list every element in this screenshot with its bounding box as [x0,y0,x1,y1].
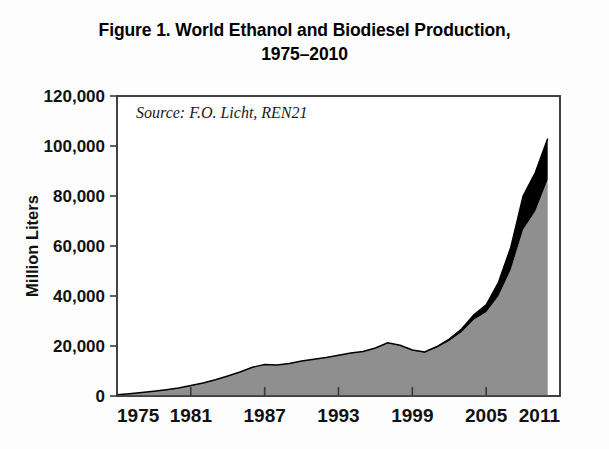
x-tick-label: 1975 [117,405,160,426]
chart-canvas: 020,00040,00060,00080,000100,000120,000 … [0,76,609,436]
x-tick-label: 1987 [244,405,286,426]
x-tick-label: 2005 [465,405,508,426]
y-axis-ticks [110,96,117,396]
y-tick-label: 100,000 [44,137,105,156]
y-tick-label: 20,000 [53,337,105,356]
source-annotation: Source: F.O. Licht, REN21 [136,104,308,121]
figure-container: Figure 1. World Ethanol and Biodiesel Pr… [0,0,609,449]
x-tick-label: 1999 [391,405,433,426]
page-title: Figure 1. World Ethanol and Biodiesel Pr… [0,18,609,66]
y-tick-label: 60,000 [53,237,105,256]
area-chart: 020,00040,00060,00080,000100,000120,000 … [0,76,609,436]
y-axis-tick-labels: 020,00040,00060,00080,000100,000120,000 [44,87,105,406]
y-axis-title: Million Liters [23,195,41,297]
x-tick-label: 2011 [519,405,561,426]
x-tick-label: 1981 [170,405,213,426]
y-tick-label: 40,000 [53,287,105,306]
y-tick-label: 120,000 [44,87,105,106]
figure-title-line-2: 1975–2010 [0,42,609,66]
y-tick-label: 80,000 [53,187,105,206]
x-tick-label: 1993 [317,405,359,426]
figure-title-line-1: Figure 1. World Ethanol and Biodiesel Pr… [0,18,609,42]
y-tick-label: 0 [96,387,105,406]
x-axis-tick-labels: 1975198119871993199920052011 [117,405,560,426]
